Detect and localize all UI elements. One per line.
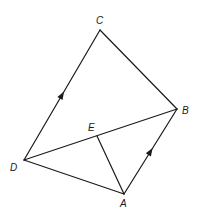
arrow-icon-ab [146,148,153,156]
arrows [57,92,152,157]
arrow-icon-dc [57,92,64,101]
label-d: D [10,162,17,173]
label-b: B [182,105,189,116]
label-a: A [119,198,127,209]
segment-ea [97,136,124,194]
labels: C B D A E [10,15,189,209]
geometry-diagram: C B D A E [0,0,204,222]
label-c: C [96,15,104,26]
segment-da [24,160,124,194]
segment-cb [100,30,177,109]
label-e: E [88,122,95,133]
edges [24,30,177,194]
segment-db [24,109,177,160]
